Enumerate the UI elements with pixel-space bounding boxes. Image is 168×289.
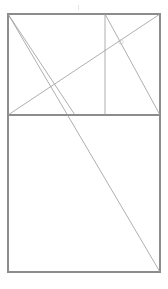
rising-diagonal-line (8, 14, 160, 115)
upper-falling-diagonal-line (8, 14, 75, 115)
short-falling-diagonal-line (105, 14, 160, 115)
geometric-figure (0, 0, 168, 289)
figure-canvas (0, 0, 168, 289)
long-falling-diagonal-line (8, 14, 160, 272)
